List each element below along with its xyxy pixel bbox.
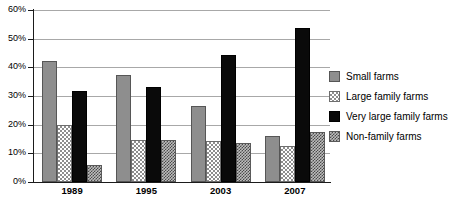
bar	[295, 28, 310, 182]
x-axis-tick-label: 2003	[186, 186, 256, 196]
bar	[42, 61, 57, 182]
legend-label: Small farms	[346, 72, 399, 82]
bar-chart: 0%10%20%30%40%50%60% 1989199520032007 Sm…	[0, 0, 457, 216]
bar-group	[116, 10, 176, 182]
y-axis-tick-label: 20%	[0, 120, 26, 129]
bar	[191, 106, 206, 182]
legend-swatch-icon	[329, 131, 340, 142]
legend-item[interactable]: Large family farms	[329, 87, 457, 106]
bar-group	[265, 10, 325, 182]
bar	[310, 132, 325, 182]
x-axis-tick-label: 1995	[111, 186, 181, 196]
y-axis-line	[33, 9, 34, 183]
legend-item[interactable]: Non-family farms	[329, 127, 457, 146]
chart-legend: Small farmsLarge family farmsVery large …	[329, 67, 457, 147]
legend-swatch-icon	[329, 111, 340, 122]
bar	[161, 140, 176, 182]
y-axis-tick-label: 60%	[0, 5, 26, 14]
x-axis-line	[28, 182, 331, 183]
y-axis-tick-label: 0%	[0, 177, 26, 186]
bar-group	[42, 10, 102, 182]
y-axis-tick-label: 10%	[0, 148, 26, 157]
legend-swatch-icon	[329, 91, 340, 102]
y-axis-labels: 0%10%20%30%40%50%60%	[0, 0, 26, 216]
bar	[265, 136, 280, 182]
x-axis-tick-label: 2007	[260, 186, 330, 196]
y-axis-tick-label: 50%	[0, 34, 26, 43]
bar	[57, 125, 72, 182]
x-axis-tick-label: 1989	[37, 186, 107, 196]
legend-item[interactable]: Very large family farms	[329, 107, 457, 126]
legend-swatch-icon	[329, 71, 340, 82]
plot-area	[33, 10, 330, 182]
bar	[146, 87, 161, 182]
y-axis-tick-label: 40%	[0, 62, 26, 71]
y-axis-tick-label: 30%	[0, 91, 26, 100]
bar	[131, 140, 146, 182]
bar	[280, 146, 295, 182]
bar	[87, 165, 102, 182]
bar	[221, 55, 236, 182]
bar	[206, 141, 221, 182]
bar	[72, 91, 87, 182]
legend-label: Non-family farms	[346, 132, 422, 142]
legend-item[interactable]: Small farms	[329, 67, 457, 86]
legend-label: Large family farms	[346, 92, 428, 102]
bar	[236, 143, 251, 182]
bar	[116, 75, 131, 182]
bar-group	[191, 10, 251, 182]
legend-label: Very large family farms	[346, 112, 448, 122]
